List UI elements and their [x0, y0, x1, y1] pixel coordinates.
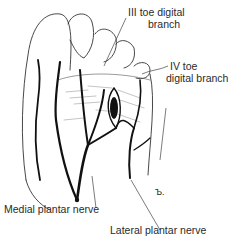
label-line: IV toe [170, 60, 228, 72]
label-medial-plantar-nerve: Medial plantar nerve [4, 203, 99, 215]
label-line: III toe digital [128, 6, 185, 18]
artist-signature: Ъ. [155, 186, 165, 198]
label-third-toe-branch: III toe digital branch [128, 6, 185, 30]
anatomy-figure: III toe digital branch IV toe digital br… [0, 0, 239, 242]
label-line: digital branch [166, 72, 228, 84]
label-line: branch [128, 18, 185, 30]
label-fourth-toe-branch: IV toe digital branch [170, 60, 228, 84]
label-lateral-plantar-nerve: Lateral plantar nerve [110, 224, 206, 236]
